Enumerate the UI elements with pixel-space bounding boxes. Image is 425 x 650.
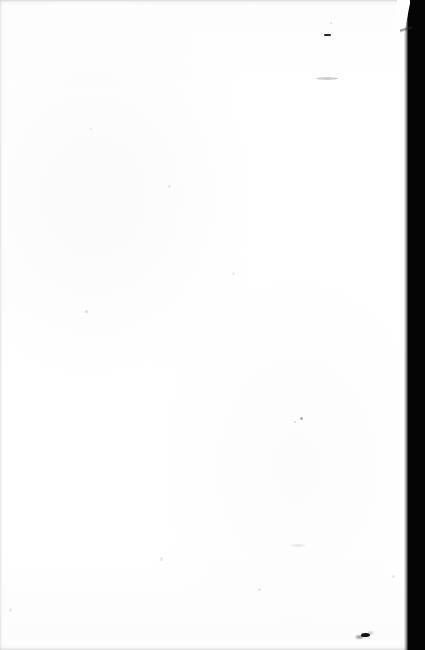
left-edge-shadow [0,0,4,650]
top-edge-shadow [0,0,425,5]
dash-mark [324,34,331,36]
bottom-edge-shadow [0,645,425,650]
right-edge-black-band [408,0,425,650]
paper-sheet [0,0,425,650]
ink-blot-tail [356,636,363,638]
top-diagonal-notch-line [400,2,412,56]
ink-blot-halo [368,632,373,634]
scanned-page [0,0,425,650]
